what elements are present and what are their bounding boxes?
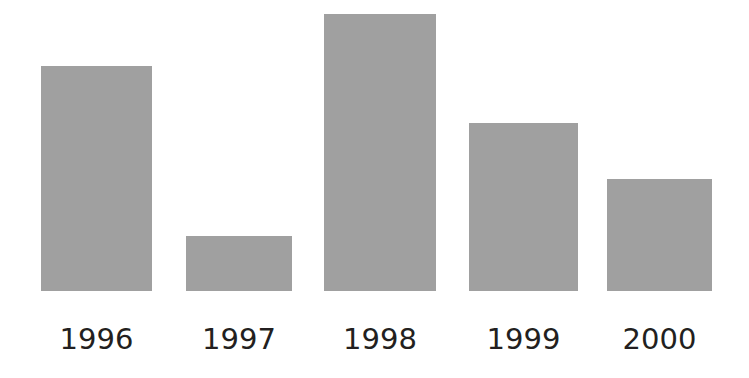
bar-1997 <box>186 236 292 291</box>
x-axis-label-1997: 1997 <box>186 322 292 356</box>
x-axis-label-1996: 1996 <box>41 322 152 356</box>
x-axis-label-1999: 1999 <box>469 322 578 356</box>
bar-1996 <box>41 66 152 291</box>
x-axis-label-2000: 2000 <box>607 322 712 356</box>
x-axis-label-1998: 1998 <box>324 322 436 356</box>
bar-chart: 1996 1997 1998 1999 2000 <box>0 0 749 378</box>
bar-2000 <box>607 179 712 291</box>
bar-1998 <box>324 14 436 291</box>
bar-1999 <box>469 123 578 291</box>
plot-area: 1996 1997 1998 1999 2000 <box>0 0 749 378</box>
